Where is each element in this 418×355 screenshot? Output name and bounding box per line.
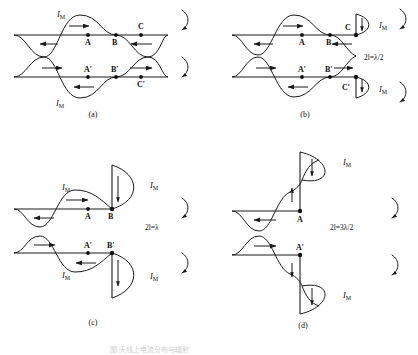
current-label-lobe: IM [149,271,159,282]
rotation-arrow-bottom-icon [392,255,398,275]
panel-c-top: A B IM IM [14,165,159,227]
sine-wave-upper [232,236,302,286]
rotation-arrow-top-icon [400,9,406,29]
point-a-dot [86,207,90,211]
point-b-label: B [326,38,332,47]
point-a-dot [86,33,90,37]
point-b-prime-label: B′ [107,241,115,250]
current-label-wave: IM [61,270,71,281]
current-label-lobe: IM [342,157,352,168]
point-b-prime-dot [328,75,332,79]
point-b-dot [328,33,332,37]
point-c-label: C [138,22,144,31]
point-a-prime-dot [300,75,304,79]
point-a-dot [298,209,302,213]
point-c-dot [354,33,358,37]
panel-c-condition-label: 2l=λ [145,223,159,232]
panel-d: A IM A′ IM 2l=3λ/2 (d) [232,152,398,330]
panel-c-caption: (c) [89,318,98,327]
point-b-prime-label: B′ [325,65,333,74]
point-b-label: B [108,212,114,221]
physics-figure: A B C IM A′ B′ C′ IM [0,0,418,355]
panel-d-condition-label: 2l=3λ/2 [330,223,354,232]
panel-b-condition-label: 2l=λ/2 [364,53,384,62]
panel-a-caption: (a) [89,110,98,119]
point-c-prime-label: C′ [342,83,350,92]
point-c-dot [139,33,143,37]
current-label-lobe: IM [342,290,352,301]
panel-a-bottom: A′ B′ C′ IM [14,57,168,109]
point-c-prime-label: C′ [137,80,145,89]
panel-b-bottom: A′ B′ C′ IM [232,56,388,98]
point-a-label: A [297,215,303,224]
panel-b: A B C IM A′ B′ C′ IM 2l=λ/2 [232,9,406,119]
point-c-prime-dot [139,75,143,79]
point-a-prime-dot [298,253,302,257]
current-label-bottom: IM [55,98,65,109]
point-b-dot [114,33,118,37]
point-b-dot [110,207,114,211]
point-b-prime-dot [110,251,114,255]
panel-b-top: A B C IM [232,14,388,56]
rotation-arrow-bottom-icon [400,82,406,102]
panel-c-bottom: A′ B′ IM IM [14,236,159,298]
sine-wave-lower-join [302,286,319,306]
figure-container: A B C IM A′ B′ C′ IM [0,0,418,355]
point-a-prime-dot [86,75,90,79]
point-a-prime-label: A′ [84,65,92,74]
rotation-arrow-bottom-icon [182,253,188,273]
panel-b-caption: (b) [300,110,310,119]
point-c-prime-dot [354,75,358,79]
current-label-bottom: IM [378,84,388,95]
rotation-arrow-top-icon [182,10,188,30]
point-a-label: A [299,38,305,47]
panel-d-top: A IM [232,152,352,231]
point-a-prime-label: A′ [84,241,92,250]
terminal-lobe [112,165,134,209]
current-label-top: IM [378,20,388,31]
point-a-prime-label: A′ [296,243,304,252]
rotation-arrow-top-icon [392,198,398,218]
sine-wave-lower [232,180,302,231]
rotation-arrow-bottom-icon [182,57,188,77]
current-label-lobe: IM [149,180,159,191]
panel-d-caption: (d) [298,321,308,330]
sine-wave-upper-join [302,160,319,180]
current-label-top: IM [56,9,66,20]
point-b-prime-label: B′ [111,65,119,74]
point-b-label: B [112,38,118,47]
sine-wave [14,15,168,57]
point-a-dot [300,33,304,37]
panel-a-top: A B C IM [14,9,168,57]
current-label-wave: IM [61,182,71,193]
point-a-prime-label: A′ [298,65,306,74]
point-a-label: A [85,212,91,221]
point-a-prime-dot [86,251,90,255]
figure-footnote: 图 天线上电流分布与辐射 [110,345,189,354]
terminal-lobe [112,253,134,298]
point-a-label: A [85,38,91,47]
panel-a: A B C IM A′ B′ C′ IM [14,9,188,119]
panel-c: A B IM IM A′ B′ IM IM [14,165,188,327]
point-b-prime-dot [114,75,118,79]
point-c-label: C [345,23,351,32]
panel-d-bottom: A′ IM [232,236,352,314]
sine-wave [14,236,112,272]
rotation-arrow-top-icon [182,198,188,218]
